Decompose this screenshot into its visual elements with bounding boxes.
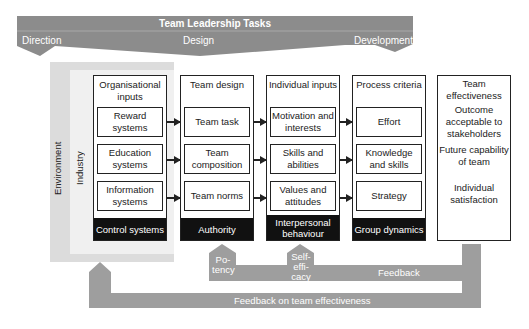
potency-label: Po- tency: [212, 255, 234, 275]
feedback-effectiveness-label: Feedback on team effectiveness: [234, 295, 371, 306]
feedback-loops: [0, 0, 529, 329]
self-efficacy-label: Self- effi- cacy: [290, 252, 312, 282]
feedback-label: Feedback: [378, 267, 420, 278]
